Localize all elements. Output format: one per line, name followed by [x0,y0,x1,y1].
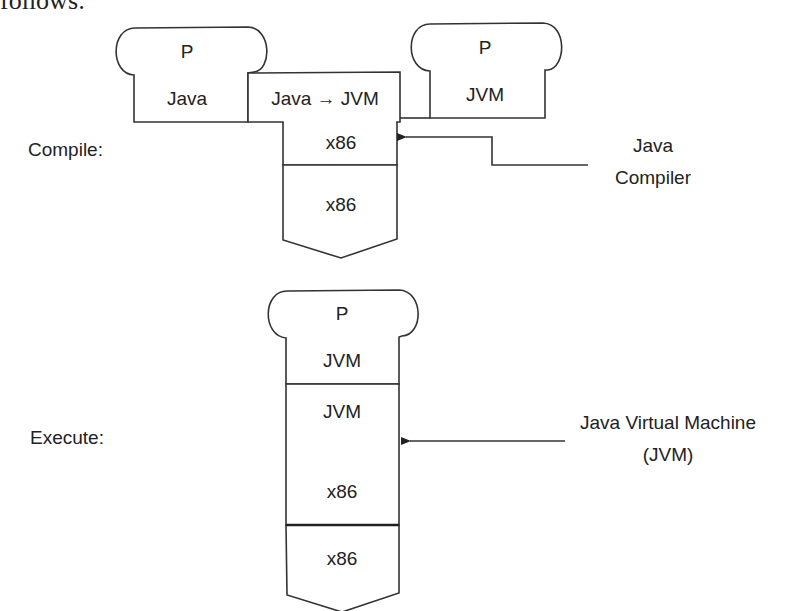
compiler-translation: Java → JVM [271,88,379,109]
execute-program-name: P [336,303,349,324]
execute-program-language: JVM [323,350,361,371]
output-program-language: JVM [466,84,504,105]
interpreter-source-language: JVM [323,401,361,422]
compile-label: Compile: [28,139,103,160]
compiler-callout-arrow [406,137,588,165]
compile-machine-label: x86 [326,194,357,215]
execute-label: Execute: [30,427,104,448]
interpreter-implementation-language: x86 [327,481,358,502]
jvm-callout-line1: Java Virtual Machine [580,412,756,433]
source-program-language: Java [167,88,208,109]
compiler-tombstone [248,72,400,165]
compiler-implementation-language: x86 [326,132,357,153]
jvm-callout-line2: (JVM) [643,444,694,465]
output-program-name: P [479,37,492,58]
source-program-name: P [181,41,194,62]
execute-machine-label: x86 [327,548,358,569]
tombstone-diagram: Compile: P Java Java → JVM x86 P JVM x86… [0,0,786,611]
compiler-callout-line2: Compiler [615,167,692,188]
compiler-callout-line1: Java [633,135,674,156]
